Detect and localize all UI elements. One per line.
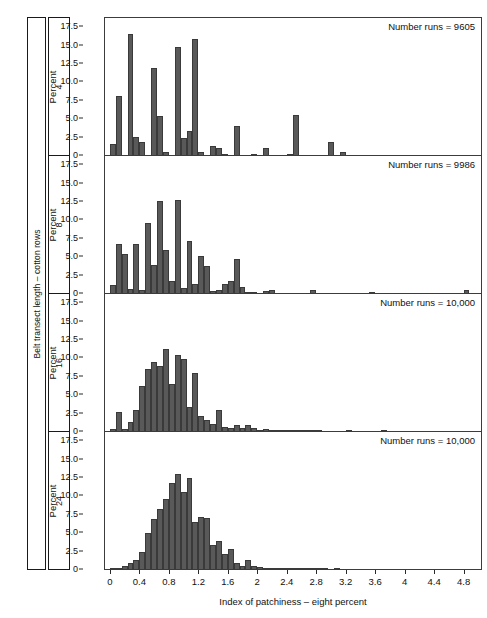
x-tick-label: 3.6 — [369, 576, 382, 587]
plot-area — [104, 431, 482, 570]
y-axis: 02.55.07.510.012.515.017.5Percent — [0, 155, 104, 294]
x-tick-mark — [375, 570, 376, 574]
panel-annotation: Number runs = 10,000 — [380, 297, 475, 308]
x-tick-mark — [110, 570, 111, 574]
histogram-bar — [328, 142, 334, 156]
histogram-bar — [157, 116, 163, 157]
y-tick-mark — [79, 375, 83, 376]
x-tick-label: 1.6 — [221, 576, 234, 587]
y-tick-mark — [79, 118, 83, 119]
y-tick-mark — [79, 458, 83, 459]
y-tick-label: 7.5 — [65, 509, 78, 519]
y-tick-label: 17.5 — [60, 159, 78, 169]
x-tick-label: 0 — [107, 576, 112, 587]
x-tick-mark — [139, 570, 140, 574]
x-tick-label: 4 — [402, 576, 407, 587]
y-tick-label: 10.0 — [60, 214, 78, 224]
histogram-bar — [116, 96, 122, 156]
histogram-bar — [192, 39, 198, 156]
y-tick-label: 17.5 — [60, 297, 78, 307]
y-tick-mark — [79, 532, 83, 533]
x-tick-label: 0.8 — [162, 576, 175, 587]
histogram-bar — [204, 266, 210, 294]
y-tick-mark — [79, 219, 83, 220]
y-tick-mark — [79, 182, 83, 183]
panel-8: Number runs = 9986 — [104, 155, 482, 294]
histogram-bar — [234, 126, 240, 156]
x-tick-mark — [228, 570, 229, 574]
y-tick-mark — [79, 81, 83, 82]
panel-annotation: Number runs = 9986 — [388, 159, 475, 170]
y-tick-label: 15.0 — [60, 316, 78, 326]
y-tick-mark — [79, 394, 83, 395]
y-tick-label: 15.0 — [60, 178, 78, 188]
y-tick-mark — [79, 99, 83, 100]
y-axis-label: Percent — [47, 484, 58, 517]
y-tick-mark — [79, 136, 83, 137]
y-tick-mark — [79, 164, 83, 165]
y-tick-mark — [79, 476, 83, 477]
y-tick-label: 7.5 — [65, 95, 78, 105]
histogram-bar — [293, 115, 299, 156]
y-tick-mark — [79, 357, 83, 358]
y-tick-mark — [79, 569, 83, 570]
x-tick-mark — [434, 570, 435, 574]
histogram-bar — [139, 142, 145, 156]
y-axis-label: Percent — [47, 70, 58, 103]
x-tick-label: 1.2 — [192, 576, 205, 587]
histogram-figure: Belt transect length – cotton rows 48162… — [0, 0, 487, 618]
y-tick-mark — [79, 440, 83, 441]
y-tick-label: 2.5 — [65, 270, 78, 280]
x-tick-mark — [316, 570, 317, 574]
x-tick-mark — [169, 570, 170, 574]
x-axis: 00.40.81.21.622.42.83.23.644.44.8 Index … — [104, 570, 482, 618]
y-tick-mark — [79, 274, 83, 275]
y-tick-mark — [79, 320, 83, 321]
y-tick-mark — [79, 200, 83, 201]
plot-area — [104, 293, 482, 432]
y-tick-mark — [79, 237, 83, 238]
panel-annotation: Number runs = 10,000 — [380, 435, 475, 446]
panel-16: Number runs = 10,000 — [104, 293, 482, 432]
y-tick-label: 2.5 — [65, 546, 78, 556]
y-tick-mark — [79, 495, 83, 496]
y-tick-label: 10.0 — [60, 352, 78, 362]
y-axis-label: Percent — [47, 346, 58, 379]
x-tick-mark — [464, 570, 465, 574]
y-tick-mark — [79, 412, 83, 413]
y-tick-label: 10.0 — [60, 76, 78, 86]
x-tick-label: 2.8 — [310, 576, 323, 587]
panel-4: Number runs = 9605 — [104, 17, 482, 156]
y-tick-label: 5.0 — [65, 251, 78, 261]
panel-annotation: Number runs = 9605 — [388, 21, 475, 32]
y-tick-label: 5.0 — [65, 527, 78, 537]
y-tick-label: 10.0 — [60, 490, 78, 500]
y-tick-mark — [79, 256, 83, 257]
plot-area — [104, 17, 482, 156]
plot-area — [104, 155, 482, 294]
x-tick-mark — [198, 570, 199, 574]
y-tick-label: 5.0 — [65, 113, 78, 123]
y-tick-mark — [79, 513, 83, 514]
x-axis-label: Index of patchiness – eight percent — [219, 596, 366, 607]
y-tick-label: 17.5 — [60, 21, 78, 31]
y-tick-label: 2.5 — [65, 408, 78, 418]
y-tick-mark — [79, 44, 83, 45]
y-axis: 02.55.07.510.012.515.017.5Percent — [0, 17, 104, 156]
y-tick-mark — [79, 62, 83, 63]
x-tick-label: 4.4 — [427, 576, 440, 587]
y-tick-label: 7.5 — [65, 233, 78, 243]
y-axis: 02.55.07.510.012.515.017.5Percent — [0, 431, 104, 570]
x-tick-mark — [405, 570, 406, 574]
y-tick-label: 0 — [73, 564, 78, 574]
histogram-bar — [133, 244, 139, 294]
x-tick-label: 0.4 — [133, 576, 146, 587]
y-tick-label: 15.0 — [60, 40, 78, 50]
x-tick-mark — [346, 570, 347, 574]
y-tick-label: 5.0 — [65, 389, 78, 399]
y-tick-label: 17.5 — [60, 435, 78, 445]
y-tick-label: 12.5 — [60, 472, 78, 482]
x-tick-mark — [257, 570, 258, 574]
y-tick-mark — [79, 26, 83, 27]
y-tick-label: 12.5 — [60, 196, 78, 206]
